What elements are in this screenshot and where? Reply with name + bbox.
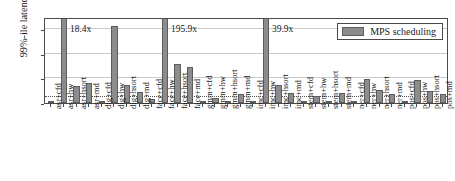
x-tick-mark	[290, 104, 291, 107]
gridline	[45, 53, 447, 54]
x-tick-label: pos+md	[445, 81, 454, 109]
x-tick-mark	[227, 104, 228, 107]
x-tick-label: face+hw	[167, 79, 176, 109]
x-tick-label: face+cfd	[155, 79, 164, 109]
x-tick-mark	[265, 104, 266, 107]
y-tick-mark	[41, 30, 44, 31]
x-tick-mark	[278, 104, 279, 107]
x-tick-mark	[416, 104, 417, 107]
legend: MPS scheduling	[337, 23, 443, 40]
x-tick-mark	[303, 104, 304, 107]
legend-swatch-mps-scheduling	[342, 27, 364, 36]
x-tick-label: face+md	[193, 79, 202, 109]
bar-value-annotation: 18.4x	[70, 24, 91, 34]
x-tick-label: imc+md	[294, 80, 303, 109]
x-tick-mark	[139, 104, 140, 107]
x-tick-label: pos+hsort	[432, 75, 441, 109]
y-tick-mark	[41, 104, 44, 105]
x-tick-label: dig+hsort	[129, 76, 138, 109]
x-tick-mark	[76, 104, 77, 107]
x-tick-mark	[366, 104, 367, 107]
x-tick-label: ner+hsort	[382, 76, 391, 109]
x-tick-label: gmm+hw	[218, 76, 227, 109]
x-tick-mark	[442, 104, 443, 107]
x-tick-label: dig+cfd	[104, 82, 113, 109]
x-tick-mark	[214, 104, 215, 107]
x-tick-mark	[151, 104, 152, 107]
legend-label-mps-scheduling: MPS scheduling	[370, 27, 436, 37]
y-tick-mark	[41, 55, 44, 56]
bar-value-annotation: 39.9x	[272, 24, 293, 34]
x-tick-mark	[164, 104, 165, 107]
x-tick-label: pos+cfd	[407, 81, 416, 109]
x-tick-label: pos+hw	[420, 82, 429, 109]
x-tick-mark	[50, 104, 51, 107]
x-tick-label: imc+hw	[268, 81, 277, 109]
x-tick-mark	[88, 104, 89, 107]
x-tick-label: asr+hw	[66, 84, 75, 109]
x-tick-label: stem+md	[344, 77, 353, 109]
x-tick-mark	[101, 104, 102, 107]
x-tick-mark	[113, 104, 114, 107]
x-tick-mark	[252, 104, 253, 107]
x-tick-label: dig+md	[142, 82, 151, 109]
x-tick-label: ner+hw	[369, 83, 378, 109]
x-tick-mark	[315, 104, 316, 107]
x-tick-label: imc+hsort	[281, 74, 290, 109]
x-tick-mark	[404, 104, 405, 107]
x-tick-label: ner+cfd	[357, 82, 366, 109]
x-tick-label: dig+hw	[117, 83, 126, 109]
x-tick-mark	[328, 104, 329, 107]
x-tick-label: gmm+md	[243, 76, 252, 110]
x-tick-mark	[429, 104, 430, 107]
bar-value-annotation: 195.9x	[171, 24, 197, 34]
x-tick-mark	[240, 104, 241, 107]
x-tick-mark	[63, 104, 64, 107]
x-tick-label: imc+cfd	[256, 80, 265, 109]
bar-chart-figure: 99%-ile latency 18.4x195.9x39.9x MPS sch…	[0, 0, 455, 181]
x-tick-label: gmm+cfd	[205, 76, 214, 110]
x-tick-mark	[341, 104, 342, 107]
x-tick-label: face+hsort	[180, 73, 189, 109]
x-tick-label: stem+hw	[319, 77, 328, 109]
x-tick-label: asr+hsort	[79, 77, 88, 109]
x-tick-label: ner+md	[395, 82, 404, 109]
x-tick-label: stem+hsort	[331, 71, 340, 109]
x-tick-mark	[126, 104, 127, 107]
x-tick-label: asr+md	[92, 83, 101, 109]
x-tick-label: asr+cfd	[54, 83, 63, 109]
x-axis-tick-labels: asr+cfdasr+hwasr+hsortasr+mddig+cfddig+h…	[44, 104, 448, 174]
x-tick-mark	[379, 104, 380, 107]
y-tick-mark	[41, 79, 44, 80]
x-tick-mark	[391, 104, 392, 107]
x-tick-mark	[177, 104, 178, 107]
y-axis-title: 99%-ile latency	[17, 0, 31, 85]
x-tick-label: stem+cfd	[306, 77, 315, 109]
x-tick-mark	[189, 104, 190, 107]
x-tick-mark	[202, 104, 203, 107]
x-tick-mark	[353, 104, 354, 107]
x-tick-label: gmm+hsort	[230, 69, 239, 109]
